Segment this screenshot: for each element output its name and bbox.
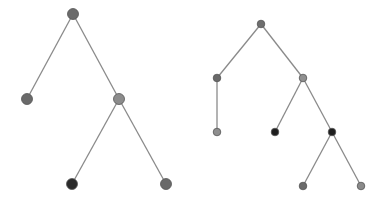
tree-right-edge-b-b1: [275, 78, 303, 132]
tree-left-node-rl: [67, 179, 78, 190]
binary-trees-diagram: [0, 0, 386, 201]
tree-left-edge-r-rl: [72, 99, 119, 184]
tree-right-node-a1: [213, 128, 221, 136]
edges-layer: [27, 14, 361, 186]
tree-left-node-r: [114, 94, 125, 105]
tree-left-edge-root-r: [73, 14, 119, 99]
tree-diagram-canvas: [0, 0, 386, 201]
nodes-layer: [22, 9, 365, 190]
tree-right-edge-root-b: [261, 24, 303, 78]
tree-right-node-b2r: [357, 182, 365, 190]
tree-right-node-b2l: [299, 182, 307, 190]
tree-right-edge-b2-b2r: [332, 132, 361, 186]
tree-left-node-root: [68, 9, 79, 20]
tree-right-node-a: [213, 74, 221, 82]
tree-right-node-b: [299, 74, 307, 82]
tree-right-node-b1: [271, 128, 279, 136]
tree-right-edge-b2-b2l: [303, 132, 332, 186]
tree-right-node-b2: [328, 128, 336, 136]
tree-right-edge-root-a: [217, 24, 261, 78]
tree-right-edge-b-b2: [303, 78, 332, 132]
tree-left-node-l: [22, 94, 33, 105]
tree-left-edge-root-l: [27, 14, 73, 99]
tree-left-node-rr: [161, 179, 172, 190]
tree-right-node-root: [257, 20, 265, 28]
tree-left-edge-r-rr: [119, 99, 166, 184]
